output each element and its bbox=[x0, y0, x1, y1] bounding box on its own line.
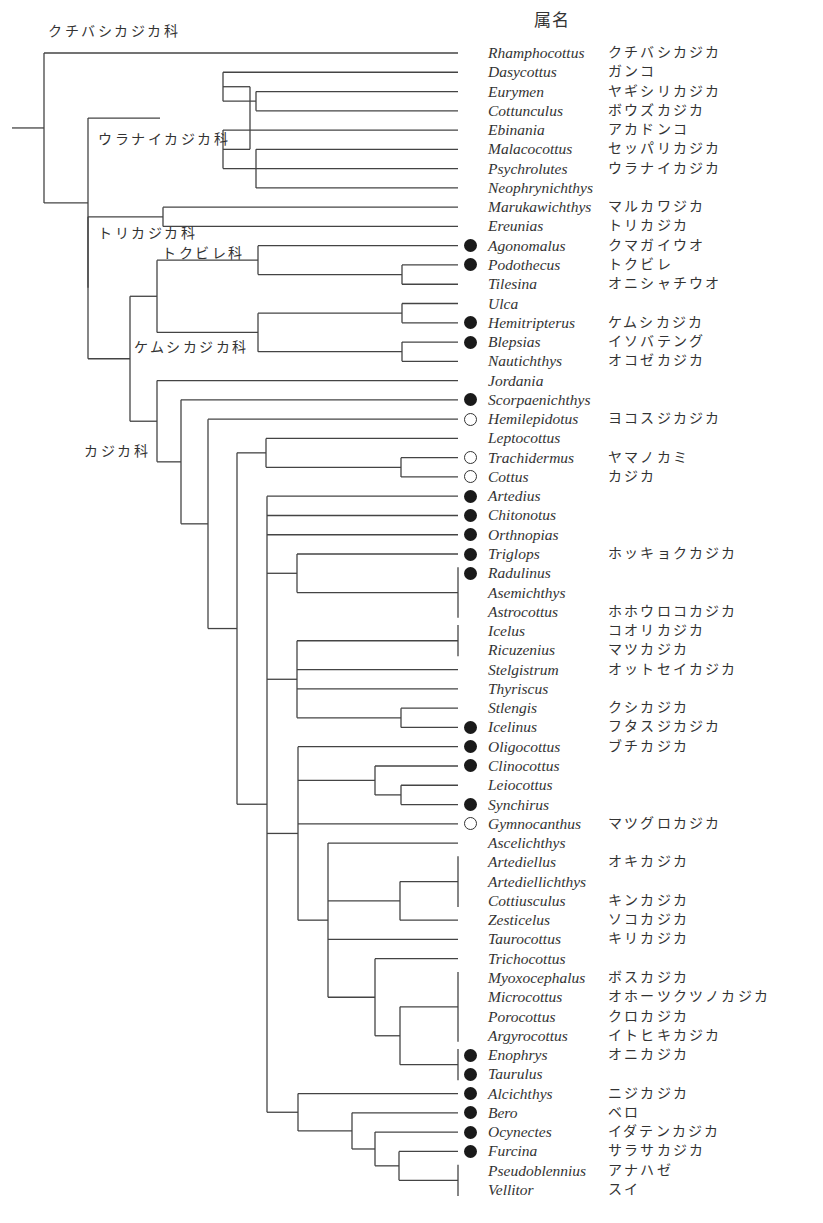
genus-name: Gymnocanthus bbox=[488, 814, 581, 833]
genus-name: Icelus bbox=[488, 621, 525, 640]
japanese-name: トクビレ bbox=[608, 255, 673, 274]
genus-name: Ricuzenius bbox=[488, 640, 555, 659]
genus-name: Stlengis bbox=[488, 698, 537, 717]
japanese-name: オニカジカ bbox=[608, 1045, 689, 1064]
genus-name: Artediellichthys bbox=[488, 872, 586, 891]
japanese-name: フタスジカジカ bbox=[608, 717, 721, 736]
japanese-name: ケムシカジカ bbox=[608, 313, 704, 332]
genus-name: Chitonotus bbox=[488, 505, 556, 524]
genus-name: Bero bbox=[488, 1103, 518, 1122]
genus-name: Ebinania bbox=[488, 120, 545, 139]
japanese-name: アカドンコ bbox=[608, 120, 689, 139]
genus-name: Rhamphocottus bbox=[488, 43, 584, 62]
japanese-name: イトヒキカジカ bbox=[608, 1026, 721, 1045]
japanese-name: マツグロカジカ bbox=[608, 814, 721, 833]
japanese-name: イダテンカジカ bbox=[608, 1122, 720, 1141]
family-label: ウラナイカジカ科 bbox=[98, 128, 230, 148]
genus-name: Artedius bbox=[488, 486, 541, 505]
genus-name: Triglops bbox=[488, 544, 540, 563]
japanese-name: ボスカジカ bbox=[608, 968, 689, 987]
genus-name: Cottiusculus bbox=[488, 891, 566, 910]
filled-circle-marker-icon bbox=[464, 1068, 477, 1081]
genus-name: Leiocottus bbox=[488, 775, 553, 794]
filled-circle-marker-icon bbox=[464, 548, 477, 561]
genus-name: Podothecus bbox=[488, 255, 560, 274]
genus-name: Stelgistrum bbox=[488, 660, 559, 679]
japanese-name: キンカジカ bbox=[608, 891, 689, 910]
japanese-name: ガンコ bbox=[608, 62, 657, 81]
japanese-name: ソコカジカ bbox=[608, 910, 689, 929]
family-label: ケムシカジカ科 bbox=[134, 336, 249, 356]
genus-name: Leptocottus bbox=[488, 428, 560, 447]
family-label: トクビレ科 bbox=[162, 242, 245, 262]
japanese-name: ニジカジカ bbox=[608, 1084, 689, 1103]
genus-name: Ocynectes bbox=[488, 1122, 552, 1141]
japanese-name: マルカワジカ bbox=[608, 197, 705, 216]
japanese-name: トリカジカ bbox=[608, 216, 689, 235]
genus-name: Eurymen bbox=[488, 82, 544, 101]
japanese-name: ブチカジカ bbox=[608, 737, 689, 756]
genus-name: Clinocottus bbox=[488, 756, 559, 775]
genus-name: Psychrolutes bbox=[488, 159, 568, 178]
japanese-name: コオリカジカ bbox=[608, 621, 705, 640]
filled-circle-marker-icon bbox=[464, 1049, 477, 1062]
japanese-name: ヤギシリカジカ bbox=[608, 82, 721, 101]
genus-name: Agonomalus bbox=[488, 236, 566, 255]
filled-circle-marker-icon bbox=[464, 336, 477, 349]
genus-name: Artediellus bbox=[488, 852, 556, 871]
genus-name: Oligocottus bbox=[488, 737, 560, 756]
japanese-name: カジカ bbox=[608, 467, 657, 486]
genus-name: Zesticelus bbox=[488, 910, 550, 929]
japanese-name: セッパリカジカ bbox=[608, 139, 721, 158]
genus-name: Cottunculus bbox=[488, 101, 563, 120]
genus-name: Trachidermus bbox=[488, 448, 574, 467]
genus-name: Radulinus bbox=[488, 563, 551, 582]
japanese-name: スイ bbox=[608, 1180, 640, 1199]
genus-name: Ereunias bbox=[488, 216, 543, 235]
family-label: クチバシカジカ科 bbox=[48, 20, 180, 40]
filled-circle-marker-icon bbox=[464, 1145, 477, 1158]
japanese-name: イソバテング bbox=[608, 332, 705, 351]
genus-name: Porocottus bbox=[488, 1007, 555, 1026]
japanese-name: ヤマノカミ bbox=[608, 448, 689, 467]
japanese-name: オニシャチウオ bbox=[608, 274, 721, 293]
japanese-name: オコゼカジカ bbox=[608, 351, 705, 370]
japanese-name: クシカジカ bbox=[608, 698, 689, 717]
genus-name: Marukawichthys bbox=[488, 197, 591, 216]
japanese-name: オホーツクツノカジカ bbox=[608, 987, 770, 1006]
genus-name: Pseudoblennius bbox=[488, 1161, 586, 1180]
japanese-name: ヨコスジカジカ bbox=[608, 409, 721, 428]
genus-name: Cottus bbox=[488, 467, 528, 486]
genus-name: Microcottus bbox=[488, 987, 562, 1006]
genus-name: Synchirus bbox=[488, 795, 549, 814]
open-circle-marker-icon bbox=[464, 413, 477, 426]
genus-name: Orthnopias bbox=[488, 525, 559, 544]
filled-circle-marker-icon bbox=[464, 567, 477, 580]
genus-column-header: 属名 bbox=[534, 6, 570, 31]
genus-name: Blepsias bbox=[488, 332, 541, 351]
japanese-name: クチバシカジカ bbox=[608, 43, 721, 62]
filled-circle-marker-icon bbox=[464, 509, 477, 522]
genus-name: Scorpaenichthys bbox=[488, 390, 590, 409]
japanese-name: アナハゼ bbox=[608, 1161, 673, 1180]
japanese-name: オキカジカ bbox=[608, 852, 689, 871]
genus-name: Taurocottus bbox=[488, 929, 561, 948]
genus-name: Dasycottus bbox=[488, 62, 557, 81]
genus-name: Ulca bbox=[488, 294, 518, 313]
filled-circle-marker-icon bbox=[464, 721, 477, 734]
japanese-name: キリカジカ bbox=[608, 929, 689, 948]
genus-name: Argyrocottus bbox=[488, 1026, 568, 1045]
japanese-name: ホッキョクカジカ bbox=[608, 544, 738, 563]
genus-name: Taurulus bbox=[488, 1064, 543, 1083]
japanese-name: サラサカジカ bbox=[608, 1141, 705, 1160]
genus-name: Hemitripterus bbox=[488, 313, 575, 332]
genus-name: Enophrys bbox=[488, 1045, 547, 1064]
filled-circle-marker-icon bbox=[464, 798, 477, 811]
family-label: トリカジカ科 bbox=[98, 222, 197, 242]
japanese-name: マツカジカ bbox=[608, 640, 689, 659]
japanese-name: クロカジカ bbox=[608, 1007, 689, 1026]
genus-name: Furcina bbox=[488, 1141, 537, 1160]
japanese-name: ボウズカジカ bbox=[608, 101, 705, 120]
japanese-name: ベロ bbox=[608, 1103, 640, 1122]
genus-name: Hemilepidotus bbox=[488, 409, 578, 428]
